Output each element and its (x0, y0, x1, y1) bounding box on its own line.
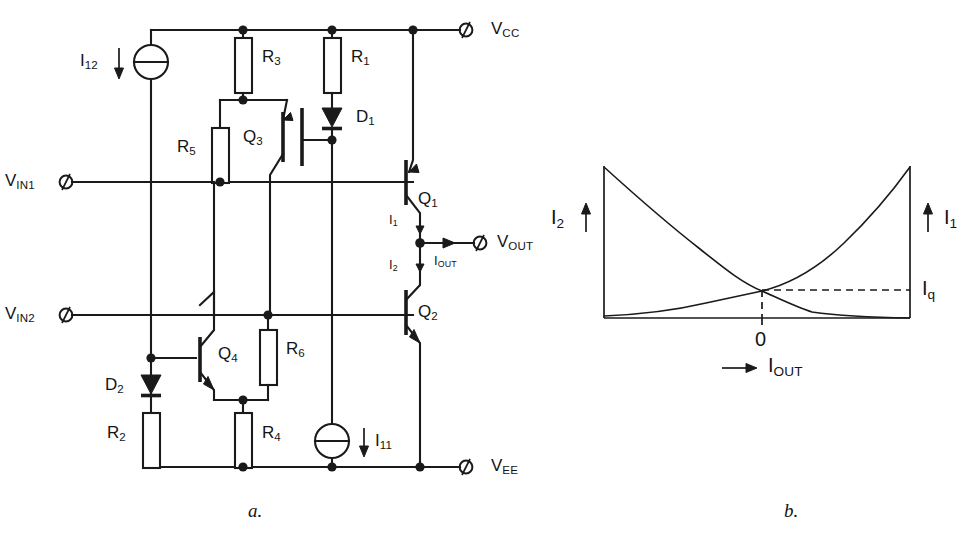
resistor-r6 (260, 315, 277, 400)
label-q1: Q1 (418, 190, 438, 210)
junction-vcc-r3 (238, 25, 247, 34)
current-source-i12 (134, 30, 168, 467)
terminal-vcc-icon (460, 22, 473, 38)
graph-label-i2: I2 (551, 207, 564, 230)
label-i12: I12 (80, 52, 98, 72)
label-vin1: VIN1 (5, 172, 35, 192)
label-vout: VOUT (497, 233, 533, 253)
graph-label-zero: 0 (755, 329, 766, 349)
i2-arrow-icon (416, 255, 424, 272)
label-i1: I1 (389, 213, 398, 228)
caption-a: a. (248, 500, 262, 522)
i1-arrow-icon (416, 215, 424, 234)
label-r5: R5 (177, 138, 196, 158)
label-q4: Q4 (218, 345, 238, 365)
figure-root: VCC VEE VOUT VIN1 VIN2 I12 I11 R3 R1 R5 … (0, 0, 979, 540)
label-q2: Q2 (418, 303, 438, 323)
label-d2: D2 (105, 376, 124, 396)
label-r6: R6 (286, 340, 305, 360)
label-r3: R3 (262, 48, 281, 68)
junction-vcc-q1 (408, 25, 417, 34)
transistor-q3 (270, 100, 332, 315)
terminal-vin2-icon (60, 307, 73, 323)
resistor-r1 (324, 30, 341, 108)
label-d1: D1 (356, 108, 375, 128)
label-q3: Q3 (243, 128, 263, 148)
curve-i1 (604, 167, 910, 316)
graph-label-i1: I1 (944, 207, 957, 230)
label-i2: I2 (389, 258, 398, 273)
resistor-r4 (235, 400, 252, 468)
resistor-r3 (235, 30, 252, 100)
curve-i2 (604, 167, 910, 318)
label-r4: R4 (262, 424, 281, 444)
i1-axis-arrow-icon (924, 203, 933, 232)
junction-r4-vee (238, 462, 247, 471)
label-vcc: VCC (491, 20, 519, 40)
resistor-r2 (143, 413, 160, 468)
label-r1: R1 (351, 48, 370, 68)
junction-r5-vin1 (215, 177, 224, 186)
junction-vee-q2 (415, 462, 424, 471)
label-vee: VEE (491, 457, 518, 477)
i12-arrow-icon (115, 48, 124, 79)
figure-graphics (0, 0, 979, 540)
diode-d1 (322, 108, 342, 467)
terminal-vin1-icon (60, 174, 73, 190)
label-i11: I11 (375, 432, 392, 452)
junction-r3-q3 (238, 95, 247, 104)
transistor-q1 (406, 30, 420, 243)
caption-b: b. (784, 500, 798, 522)
i11-arrow-icon (360, 428, 369, 457)
terminal-vout-icon (474, 235, 487, 251)
junction-d1-q3base (327, 135, 336, 144)
label-r2: R2 (107, 424, 126, 444)
transistor-q2 (406, 243, 420, 467)
current-source-i11 (315, 424, 349, 458)
diode-d2 (141, 375, 161, 396)
label-vin2: VIN2 (5, 305, 35, 325)
junction-vcc-r1 (327, 25, 336, 34)
graph-label-iq: Iq (922, 278, 935, 301)
terminal-vee-icon (460, 459, 473, 475)
resistor-r5 (212, 100, 229, 183)
label-iout: IOUT (434, 254, 457, 269)
iout-axis-arrow-icon (722, 364, 757, 373)
graph-label-iout: IOUT (768, 355, 803, 378)
i2-axis-arrow-icon (582, 203, 591, 232)
junction-r6-vin2 (263, 310, 272, 319)
junction-i11-vee (327, 462, 336, 471)
iout-arrow-icon (443, 238, 455, 248)
circuit-panel (60, 22, 487, 475)
